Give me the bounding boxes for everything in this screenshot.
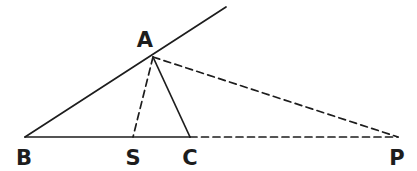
segments-group: [25, 7, 398, 137]
geometry-canvas: ABSCP: [0, 0, 417, 171]
vertex-label-c: C: [182, 146, 197, 170]
segment-a-to-p: [153, 57, 398, 137]
labels-group: ABSCP: [16, 28, 405, 170]
segment-a-to-s: [133, 57, 153, 137]
vertex-label-b: B: [16, 146, 32, 170]
vertex-label-s: S: [125, 146, 140, 170]
vertex-label-a: A: [137, 28, 154, 52]
segment-b-to-rayend: [25, 7, 226, 137]
vertex-label-p: P: [389, 146, 404, 170]
segment-a-to-c: [153, 57, 190, 137]
geometry-figure: ABSCP: [0, 0, 417, 171]
